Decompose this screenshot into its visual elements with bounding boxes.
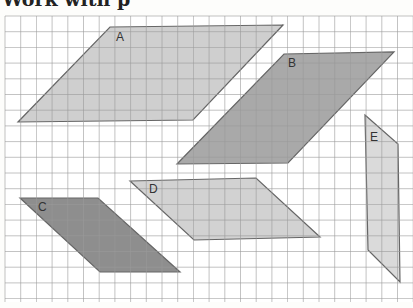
shape-label-c: C <box>38 200 47 214</box>
shape-label-a: A <box>116 30 124 44</box>
shape-label-e: E <box>370 130 378 144</box>
shape-label-b: B <box>288 56 296 70</box>
shape-label-d: D <box>149 182 158 196</box>
grid-diagram: ABCDE <box>0 0 413 308</box>
